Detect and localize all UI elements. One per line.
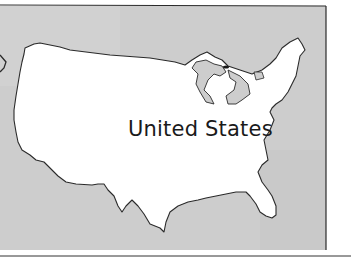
map-illustration: United States <box>0 0 351 266</box>
frame-top <box>0 5 326 6</box>
country-label: United States <box>128 117 273 141</box>
